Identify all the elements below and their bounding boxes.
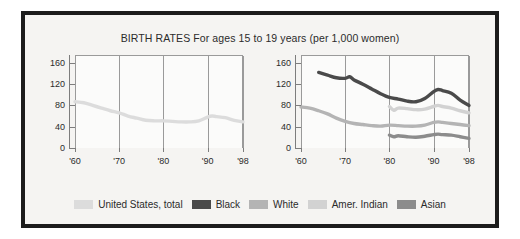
- x-tick-label: '60: [69, 156, 81, 166]
- y-tick-label: 40: [281, 122, 291, 132]
- y-tick-label: 40: [55, 122, 65, 132]
- x-tick-label: '98: [237, 156, 249, 166]
- series-layer: [75, 56, 243, 149]
- x-tick-label: '98: [463, 156, 475, 166]
- y-tick-mark: [295, 84, 301, 85]
- x-tick-label: '80: [158, 156, 170, 166]
- gridline-x: [243, 56, 244, 148]
- legend-item-label: Black: [216, 199, 240, 210]
- legend-item[interactable]: Amer. Indian: [308, 199, 388, 210]
- y-tick-label: 80: [55, 100, 65, 110]
- x-tick-mark: [434, 148, 435, 152]
- gridline-x: [469, 56, 470, 148]
- legend-item-label: Asian: [421, 199, 446, 210]
- y-axis-spine-left: [69, 55, 70, 148]
- legend-item-label: United States, total: [98, 199, 183, 210]
- y-axis-spine-right: [295, 55, 296, 148]
- legend-item[interactable]: Asian: [397, 199, 446, 210]
- legend-item-label: Amer. Indian: [332, 199, 388, 210]
- x-tick-mark: [119, 148, 120, 152]
- x-tick-mark: [243, 148, 244, 152]
- x-tick-label: '60: [295, 156, 307, 166]
- series-layer: [301, 56, 469, 149]
- y-tick-mark: [69, 127, 75, 128]
- plot-area-right: [301, 55, 469, 148]
- x-tick-label: '80: [384, 156, 396, 166]
- chart-panel-right: 04080120160'60'70'80'90'98: [265, 47, 475, 172]
- x-tick-mark: [163, 148, 164, 152]
- y-tick-mark: [69, 105, 75, 106]
- legend-item[interactable]: United States, total: [74, 199, 183, 210]
- x-tick-mark: [345, 148, 346, 152]
- x-tick-mark: [301, 148, 302, 152]
- y-tick-mark: [295, 63, 301, 64]
- y-tick-mark: [295, 127, 301, 128]
- chart-figure: BIRTH RATES For ages 15 to 19 years (per…: [21, 11, 499, 228]
- legend-item[interactable]: White: [249, 199, 299, 210]
- y-tick-label: 80: [281, 100, 291, 110]
- x-tick-mark: [208, 148, 209, 152]
- y-tick-label: 160: [50, 58, 65, 68]
- x-tick-mark: [389, 148, 390, 152]
- legend-item-label: White: [273, 199, 299, 210]
- legend-swatch: [397, 200, 416, 209]
- chart-legend: United States, totalBlackWhiteAmer. Indi…: [25, 199, 495, 210]
- series-line: [389, 105, 469, 112]
- x-tick-label: '90: [202, 156, 214, 166]
- legend-swatch: [249, 200, 268, 209]
- series-line: [319, 72, 469, 105]
- series-line: [75, 102, 243, 122]
- figure-inner: BIRTH RATES For ages 15 to 19 years (per…: [25, 15, 495, 224]
- y-tick-mark: [295, 105, 301, 106]
- y-tick-label: 0: [286, 143, 291, 153]
- x-tick-mark: [75, 148, 76, 152]
- series-line: [301, 107, 469, 126]
- legend-swatch: [308, 200, 327, 209]
- plot-area-left: [75, 55, 243, 148]
- chart-title: BIRTH RATES For ages 15 to 19 years (per…: [25, 32, 495, 44]
- y-tick-mark: [69, 63, 75, 64]
- series-line: [389, 134, 469, 138]
- y-tick-label: 160: [276, 58, 291, 68]
- legend-swatch: [192, 200, 211, 209]
- legend-item[interactable]: Black: [192, 199, 240, 210]
- x-tick-label: '70: [339, 156, 351, 166]
- chart-panel-left: 04080120160'60'70'80'90'98: [39, 47, 249, 172]
- y-tick-label: 0: [60, 143, 65, 153]
- x-tick-mark: [469, 148, 470, 152]
- y-tick-label: 120: [50, 79, 65, 89]
- y-tick-mark: [69, 84, 75, 85]
- y-tick-label: 120: [276, 79, 291, 89]
- x-tick-label: '90: [428, 156, 440, 166]
- legend-swatch: [74, 200, 93, 209]
- x-tick-label: '70: [113, 156, 125, 166]
